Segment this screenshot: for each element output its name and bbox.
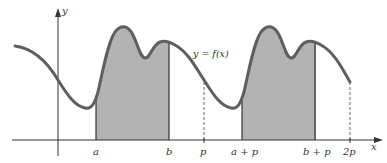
tick-label-b-plus-p: b + p	[303, 146, 331, 157]
tick-label-b: b	[166, 146, 172, 157]
x-axis-label: x	[371, 141, 377, 152]
tick-label-2p: 2p	[342, 146, 356, 157]
tick-label-a-plus-p: a + p	[231, 146, 259, 157]
y-axis-label: y	[61, 5, 68, 16]
periodic-function-diagram: y x y = f(x) a b p a + p b + p 2p	[0, 0, 387, 163]
y-axis-arrow-icon	[55, 8, 61, 17]
tick-label-p: p	[200, 146, 207, 157]
tick-label-a: a	[93, 146, 99, 157]
diagram-canvas: y x y = f(x) a b p a + p b + p 2p	[0, 0, 387, 163]
curve-label: y = f(x)	[192, 48, 229, 59]
